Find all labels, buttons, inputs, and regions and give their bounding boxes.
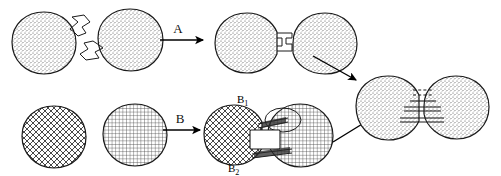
diagram-root: A B: [0, 0, 501, 176]
arrow-a-label: A: [173, 21, 183, 36]
reaction-scheme-svg: A B: [0, 0, 501, 176]
junction-cavity-box: [250, 130, 280, 149]
arrow-b-label: B: [176, 111, 185, 126]
